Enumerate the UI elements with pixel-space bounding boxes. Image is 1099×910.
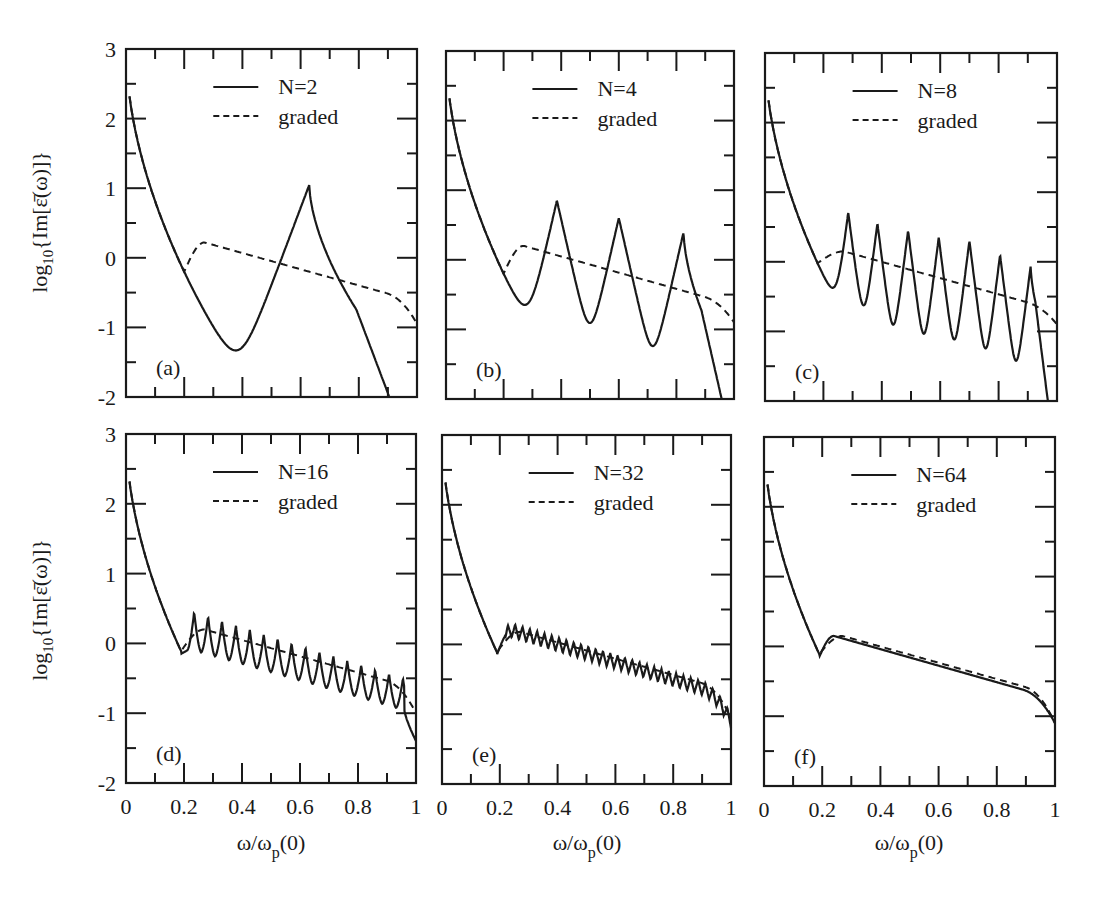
plot-frame: [446, 51, 734, 399]
x-tick-label: 1: [1050, 797, 1061, 822]
panel-label: (f): [794, 744, 816, 769]
layered-curve-n-2: [130, 96, 418, 397]
x-tick-label: 0.6: [286, 794, 314, 819]
x-tick-label: 0.8: [344, 794, 372, 819]
svg-text:ω/ωp(0): ω/ωp(0): [553, 830, 622, 862]
graded-curve: [450, 98, 735, 322]
axis-ticks: [442, 435, 731, 784]
axis-ticks: [446, 51, 734, 399]
x-tick-label: 0.2: [486, 795, 514, 820]
axis-ticks: [764, 437, 1055, 786]
legend: N=32graded: [529, 460, 654, 515]
panel-b: N=4graded(b): [446, 51, 734, 399]
y-tick-label: 1: [105, 176, 116, 201]
svg-text:ω/ωp(0): ω/ωp(0): [875, 830, 944, 862]
x-tick-label: 0.8: [659, 795, 687, 820]
graded-curve: [446, 483, 732, 718]
layered-curve-n-64: [768, 485, 1056, 724]
axis-ticks: [126, 434, 416, 783]
x-tick-label: 0.8: [983, 797, 1011, 822]
x-axis-label-f: ω/ωp(0): [875, 830, 944, 862]
axis-ticks: [126, 49, 417, 397]
x-tick-label: 0: [121, 794, 132, 819]
legend-solid-label: N=4: [597, 76, 636, 101]
y-tick-label: 0: [105, 631, 116, 656]
x-axis-label-d: ω/ωp(0): [237, 830, 306, 862]
panel-e: 00.20.40.60.81N=32graded(e): [437, 435, 737, 820]
legend: N=8graded: [853, 78, 978, 133]
legend-dashed-label: graded: [278, 489, 338, 514]
x-tick-label: 0: [437, 795, 448, 820]
x-tick-label: 0.4: [867, 797, 895, 822]
plot-frame: [764, 437, 1055, 786]
legend-dashed-label: graded: [597, 106, 657, 131]
panel-a: 3210-1-2N=2graded(a): [98, 37, 417, 410]
y-tick-label: 1: [105, 562, 116, 587]
layered-curve-n-8: [769, 100, 1058, 401]
legend-dashed-label: graded: [594, 490, 654, 515]
layered-curve-n-4: [450, 98, 735, 399]
x-tick-label: 0.4: [228, 794, 256, 819]
legend: N=2graded: [213, 74, 338, 129]
legend-dashed-label: graded: [278, 104, 338, 129]
legend-solid-label: N=16: [278, 459, 328, 484]
panel-c: N=8graded(c): [765, 53, 1057, 401]
panel-label: (b): [476, 357, 502, 382]
y-tick-label: -1: [98, 315, 116, 340]
x-tick-label: 0.4: [544, 795, 572, 820]
layered-curve-n-16: [130, 482, 417, 742]
x-tick-label: 0.6: [925, 797, 953, 822]
graded-curve: [769, 100, 1058, 324]
plot-frame: [126, 434, 416, 783]
panel-label: (e): [472, 742, 496, 767]
x-tick-label: 1: [726, 795, 737, 820]
legend-dashed-label: graded: [918, 108, 978, 133]
y-tick-label: 3: [105, 422, 116, 447]
y-tick-label: -1: [98, 701, 116, 726]
legend: N=64graded: [851, 462, 976, 517]
y-axis-label-bottom: log10{Im[ε̄(ω)]}: [27, 539, 56, 681]
panel-label: (a): [156, 355, 180, 380]
legend: N=16graded: [213, 459, 338, 514]
x-tick-label: 0.2: [808, 797, 836, 822]
figure: log10{Im[ε̄(ω)]} log10{Im[ε̄(ω)]} 3210-1…: [0, 0, 1099, 910]
svg-text:ω/ωp(0): ω/ωp(0): [237, 830, 306, 862]
y-tick-label: -2: [98, 385, 116, 410]
panel-f: 00.20.40.60.81N=64graded(f): [759, 437, 1061, 822]
legend-solid-label: N=32: [594, 460, 644, 485]
plot-frame: [126, 49, 417, 397]
panel-d: 3210-1-200.20.40.60.81N=16graded(d): [98, 422, 422, 819]
legend: N=4graded: [532, 76, 657, 131]
y-tick-label: 2: [105, 107, 116, 132]
legend-solid-label: N=2: [278, 74, 317, 99]
plot-frame: [442, 435, 731, 784]
x-axis-label-e: ω/ωp(0): [553, 830, 622, 862]
layered-curve-n-32: [446, 483, 732, 729]
y-tick-label: 0: [105, 246, 116, 271]
graded-curve: [130, 96, 418, 324]
y-tick-label: 3: [105, 37, 116, 62]
x-tick-label: 0.6: [602, 795, 630, 820]
x-tick-label: 0.2: [170, 794, 198, 819]
panel-label: (c): [795, 359, 819, 384]
y-tick-label: -2: [98, 771, 116, 796]
panel-label: (d): [156, 741, 182, 766]
x-tick-label: 0: [759, 797, 770, 822]
legend-solid-label: N=8: [918, 78, 957, 103]
y-axis-label-top: log10{Im[ε̄(ω)]}: [27, 151, 56, 293]
y-tick-label: 2: [105, 492, 116, 517]
legend-solid-label: N=64: [916, 462, 966, 487]
legend-dashed-label: graded: [916, 492, 976, 517]
x-tick-label: 1: [411, 794, 422, 819]
